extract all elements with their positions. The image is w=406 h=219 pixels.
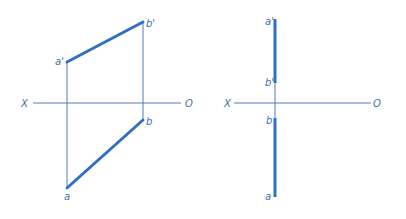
right-label-a-prime: a' <box>265 16 274 27</box>
left-x-label: X <box>20 98 29 109</box>
right-view: X O a' b' b a <box>223 16 381 202</box>
right-label-b-prime: b' <box>265 77 274 88</box>
right-label-a: a <box>265 191 271 202</box>
right-o-label: O <box>373 98 381 109</box>
left-view: X O a' b' b a <box>20 18 193 202</box>
left-plan-line-ab <box>67 120 143 188</box>
left-label-b: b <box>146 116 152 127</box>
diagram-canvas: X O a' b' b a X O a' b' b a <box>0 0 406 219</box>
left-label-a-prime: a' <box>55 56 64 67</box>
left-o-label: O <box>185 98 193 109</box>
left-label-a: a <box>64 191 70 202</box>
right-x-label: X <box>223 98 232 109</box>
right-label-b: b <box>266 115 272 126</box>
orthographic-projection-diagram: X O a' b' b a X O a' b' b a <box>0 0 406 219</box>
left-elevation-line-ab-prime <box>67 22 143 62</box>
left-label-b-prime: b' <box>146 18 155 29</box>
